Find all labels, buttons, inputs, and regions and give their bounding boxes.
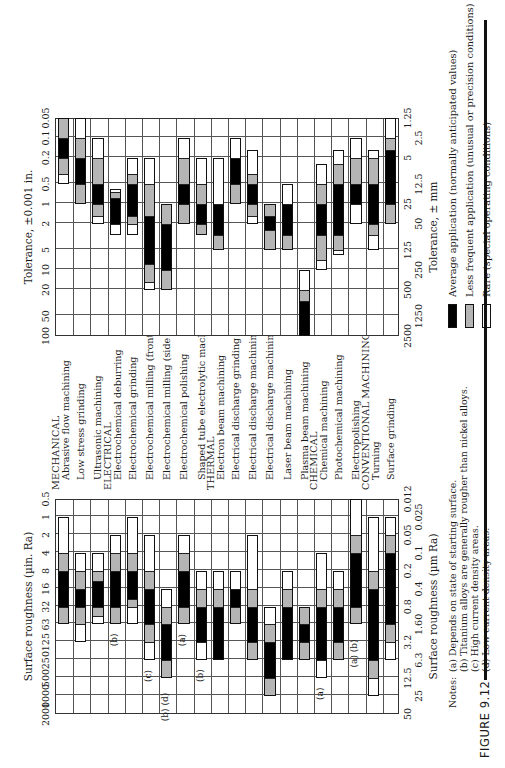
bar-segment-avg (110, 198, 121, 224)
process-label: Surface grinding (386, 398, 396, 480)
bar-segment-rare (92, 616, 103, 625)
bar-segment-rare (350, 204, 361, 224)
bar-segment-less (144, 184, 155, 216)
bar-segment-rare (385, 118, 396, 138)
tick-label: 2 (40, 221, 51, 227)
bar-segment-less (58, 118, 69, 138)
bar-segment-less (316, 184, 327, 204)
bar-segment-rare (92, 216, 103, 224)
grid-line (245, 119, 246, 335)
bar-segment-avg (299, 301, 310, 336)
bar-segment-rare (230, 138, 241, 158)
bar-segment-rare (144, 282, 155, 290)
bar-segment-rare (247, 216, 258, 224)
bar-segment-less (316, 235, 327, 259)
bar-segment-avg (282, 607, 293, 660)
tolerance-grid (55, 118, 399, 336)
bar-segment-less (127, 174, 138, 184)
legend-item-average: Average application (normally anticipate… (447, 50, 458, 328)
grid-line (262, 119, 263, 335)
grid-line (73, 119, 74, 335)
bar-segment-less (110, 553, 121, 571)
bar-segment-less (196, 589, 207, 607)
grid-line (90, 119, 91, 335)
bar-segment-avg (230, 589, 241, 607)
grid-line (73, 500, 74, 713)
grid-line (159, 119, 160, 335)
tick-label-secondary: 0.2 (402, 563, 413, 578)
grid-line (211, 500, 212, 713)
note-b: (b) Titanium alloys are generally roughe… (458, 386, 469, 672)
tick-label-secondary: 25 (402, 198, 413, 210)
bar-segment-less (385, 535, 396, 553)
bar-segment-less (350, 535, 361, 553)
bar-segment-rare (58, 517, 69, 553)
bar-segment-rare (127, 158, 138, 174)
note-text: Depends on state of starting surface. (447, 480, 458, 656)
bar-segment-less (368, 660, 379, 678)
bar-segment-avg (92, 184, 103, 204)
bar-segment-rare (75, 118, 86, 138)
grid-line (348, 119, 349, 335)
bar-segment-rare (178, 535, 189, 553)
process-label: Electrochemical milling (frontal) (145, 321, 155, 480)
bar-segment-less (264, 230, 275, 250)
bar-segment-rare (92, 553, 103, 571)
process-label: Electrochemical deburring (113, 349, 123, 480)
grid-line (108, 500, 109, 713)
bar-segment-less (230, 607, 241, 625)
bar-segment-rare (282, 571, 293, 589)
grid-line (211, 119, 212, 335)
grid-line (314, 119, 315, 335)
bar-segment-avg (178, 184, 189, 204)
grid-line (125, 500, 126, 713)
grid-line (331, 119, 332, 335)
process-label: Laser beam machining (283, 369, 293, 480)
bar-segment-avg (350, 553, 361, 607)
bar-segment-rare (144, 642, 155, 660)
bar-segment-less (196, 184, 207, 204)
process-label: Electrical discharge grinding (231, 338, 241, 480)
tick-label-secondary: 0.4 (413, 581, 424, 596)
bar-segment-avg (385, 553, 396, 624)
process-label: Chemical machining (319, 380, 329, 480)
bar-segment-rare (333, 571, 344, 589)
note-a: (a) Depends on state of starting surface… (447, 480, 458, 672)
tick-label-secondary: 25 (413, 690, 424, 702)
bar-segment-avg (333, 184, 344, 235)
bar-segment-rare (282, 184, 293, 204)
bar-segment-avg (230, 158, 241, 184)
bar-segment-less (92, 204, 103, 216)
tick-label: 10 (40, 264, 51, 276)
bar-segment-avg (385, 150, 396, 204)
bar-segment-avg (316, 607, 327, 660)
bar-segment-rare (350, 499, 361, 535)
bar-segment-rare (316, 260, 327, 270)
bar-segment-less (178, 553, 189, 571)
bar-segment-less (333, 642, 344, 660)
bar-segment-avg (178, 571, 189, 607)
grid-line (228, 500, 229, 713)
process-label: Electrochemical grinding (128, 357, 138, 480)
bar-segment-less (299, 290, 310, 302)
bar-segment-rare (127, 517, 138, 553)
bar-segment-rare (333, 250, 344, 255)
category-label: ELECTRICAL (103, 422, 113, 490)
bar-segment-avg (196, 607, 207, 642)
bar-segment-less (92, 158, 103, 184)
figure-page: Surface roughness (µin. Ra) 200010005002… (0, 0, 505, 768)
tick-label: 50 (40, 310, 51, 322)
tick-label-secondary: 1.25 (402, 107, 413, 128)
bar-segment-rare (316, 553, 327, 589)
roughness-grid (55, 499, 399, 714)
grid-line (314, 500, 315, 713)
grid-line (125, 119, 126, 335)
category-label: CONVENTIONAL MACHINING (361, 332, 371, 490)
category-label: THERMAL (206, 436, 216, 490)
bar-segment-rare (230, 571, 241, 589)
bar-segment-rare (368, 235, 379, 250)
note-reference: (b) (109, 633, 119, 646)
tick-label-secondary: 2.5 (413, 130, 424, 145)
bar-segment-less (385, 624, 396, 642)
tick-label-secondary: 3.2 (402, 635, 413, 650)
